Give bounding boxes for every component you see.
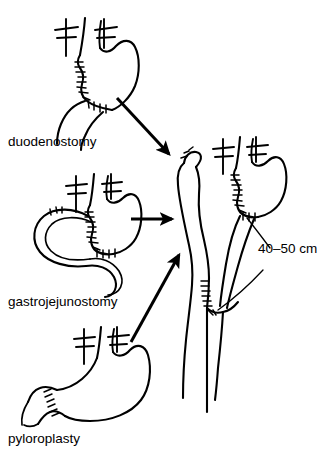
esophagus-line xyxy=(236,137,240,168)
top-margin xyxy=(0,0,328,5)
gastric-remnant-greater-curvature xyxy=(252,157,286,217)
arrow-duodenostomy-to-result xyxy=(117,98,169,154)
esophagus-line xyxy=(97,327,101,358)
suture-line xyxy=(231,175,255,221)
panel-pyloroplasty: pyloroplasty xyxy=(8,327,150,446)
vagotomy-marker-icon xyxy=(108,327,129,352)
diagram-canvas: duodenostomy xyxy=(0,0,328,459)
vagotomy-marker-icon xyxy=(247,137,268,162)
stomach-lesser-curvature xyxy=(57,358,97,390)
vagotomy-marker-icon xyxy=(74,329,95,364)
panel-duodenostomy: duodenostomy xyxy=(8,18,139,150)
jejunal-limb-inner-efferent xyxy=(90,259,122,296)
panel-label-pyloroplasty: pyloroplasty xyxy=(8,431,80,446)
stomach-greater-curvature xyxy=(107,194,141,254)
panel-label-gastrojejunostomy: gastrojejunostomy xyxy=(8,294,118,309)
duodenum-lower-contour xyxy=(24,424,38,426)
esophagus-line xyxy=(80,18,85,55)
esophagus-line xyxy=(90,174,94,205)
vagotomy-marker-icon xyxy=(102,174,122,199)
roux-limb-left-tip xyxy=(184,152,201,167)
roux-limb-right-inner xyxy=(227,219,254,308)
panel-label-duodenostomy: duodenostomy xyxy=(8,134,97,149)
panel-roux-en-y: 40–50 cm xyxy=(178,137,318,412)
roux-limb-left-inner xyxy=(196,167,209,308)
common-channel-right xyxy=(215,312,223,400)
surgical-diagram: duodenostomy xyxy=(0,0,328,459)
vagotomy-marker-icon xyxy=(213,139,234,174)
vagotomy-marker-icon xyxy=(66,176,87,212)
panel-gastrojejunostomy: gastrojejunostomy xyxy=(8,174,141,309)
duodenum-contour xyxy=(22,402,28,425)
arrow-pyloroplasty-to-result xyxy=(131,255,179,342)
jejunal-limb-efferent xyxy=(86,265,116,297)
jejunal-limb-inner xyxy=(45,218,91,260)
roux-limb-left-outer xyxy=(178,163,193,398)
vagotomy-marker-icon xyxy=(55,19,78,56)
vagotomy-marker-icon xyxy=(95,19,117,48)
measurement-label: 40–50 cm xyxy=(258,241,317,256)
pylorus-lower-contour xyxy=(38,411,65,424)
suture-line xyxy=(75,62,106,113)
